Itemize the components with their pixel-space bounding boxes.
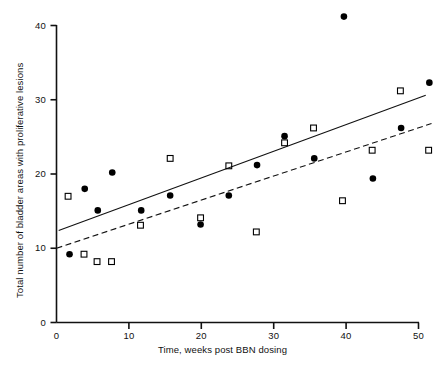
y-tick-label: 40	[0, 20, 46, 31]
x-tick-label: 40	[326, 330, 366, 341]
x-tick-label: 0	[37, 330, 77, 341]
x-axis-label: Time, weeks post BBN dosing	[0, 344, 445, 355]
x-axis-ticks	[129, 323, 419, 330]
x-tick-label: 30	[254, 330, 294, 341]
y-axis-ticks	[51, 26, 57, 323]
y-tick-label: 0	[0, 317, 46, 328]
x-tick-label: 20	[181, 330, 221, 341]
y-tick-label: 20	[0, 168, 46, 179]
filled-circle-markers	[66, 13, 432, 257]
y-tick-label: 10	[0, 242, 46, 253]
scatter-chart-figure: Total number of bladder areas with proli…	[0, 0, 445, 370]
y-tick-label: 30	[0, 94, 46, 105]
open-square-markers	[65, 88, 431, 265]
plot-area	[0, 0, 445, 370]
x-tick-label: 50	[399, 330, 439, 341]
x-tick-label: 10	[109, 330, 149, 341]
